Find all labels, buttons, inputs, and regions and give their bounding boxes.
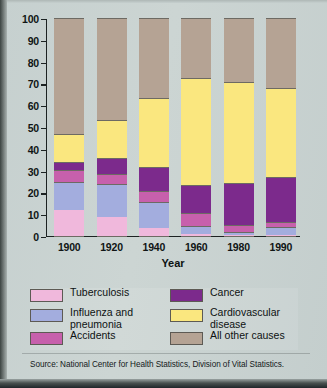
bar-segment-1980-influenza-and-pneumonia[interactable] [224,232,254,235]
bar-segment-1990-cardiovascular-disease[interactable] [266,88,296,177]
scan-edge-bottom [0,379,327,388]
legend-item-tuberculosis[interactable]: Tuberculosis [30,288,164,306]
legend-item-accidents[interactable]: Accidents [30,331,164,349]
bar-segment-1940-cancer[interactable] [139,167,169,191]
bar-segment-1920-influenza-and-pneumonia[interactable] [97,184,127,218]
bar-segment-1900-cardiovascular-disease[interactable] [54,134,84,162]
chart-page: Percent of All Deaths 100908070605040302… [0,0,327,388]
bar-segment-1980-all-other-causes[interactable] [224,18,254,82]
bar-segment-1920-tuberculosis[interactable] [97,217,127,236]
bar-segment-1960-all-other-causes[interactable] [181,18,211,78]
bar-segment-1940-all-other-causes[interactable] [139,18,169,98]
y-tick-label: 10 [28,209,39,221]
legend: TuberculosisInfluenza and pneumoniaAccid… [30,288,298,350]
x-tick-label-1980: 1980 [216,241,262,253]
legend-label: Cancer [210,287,244,299]
y-tick [41,150,46,151]
y-tick [41,193,46,194]
bar-segment-1960-accidents[interactable] [181,213,211,226]
legend-item-influenza-and-pneumonia[interactable]: Influenza and pneumonia [30,308,164,326]
source-note: Source: National Center for Health Stati… [30,360,310,369]
bar-segment-1900-accidents[interactable] [54,170,84,182]
x-tick-label-1940: 1940 [131,241,177,253]
bar-1940[interactable] [139,19,169,237]
bar-1900[interactable] [54,19,84,237]
y-tick-label: 80 [28,57,39,69]
bar-segment-1900-tuberculosis[interactable] [54,210,84,236]
legend-swatch-icon [30,289,63,302]
legend-label: Influenza and pneumonia [70,307,133,330]
y-tick [41,172,46,173]
bar-segment-1920-cancer[interactable] [97,158,127,174]
bar-1980[interactable] [224,19,254,237]
y-tick [41,106,46,107]
bar-segment-1990-tuberculosis[interactable] [266,235,296,236]
bar-segment-1900-influenza-and-pneumonia[interactable] [54,182,84,210]
bar-segment-1960-tuberculosis[interactable] [181,234,211,236]
bar-segment-1920-all-other-causes[interactable] [97,18,127,120]
bar-segment-1980-cancer[interactable] [224,183,254,226]
legend-swatch-icon [170,332,203,345]
bar-segment-1940-cardiovascular-disease[interactable] [139,98,169,168]
bar-segment-1960-cancer[interactable] [181,185,211,213]
bar-segment-1940-tuberculosis[interactable] [139,228,169,236]
bar-segment-1960-influenza-and-pneumonia[interactable] [181,226,211,234]
scan-edge-left [0,0,7,388]
y-tick-label: 100 [22,13,39,25]
legend-label: All other causes [210,330,285,342]
legend-swatch-icon [170,309,203,322]
bar-segment-1990-influenza-and-pneumonia[interactable] [266,227,296,235]
y-tick [41,19,46,20]
bar-segment-1980-tuberculosis[interactable] [224,235,254,236]
scan-edge-top [0,0,327,3]
x-tick-label-1920: 1920 [89,241,135,253]
y-tick-label: 30 [28,166,39,178]
legend-label: Tuberculosis [70,287,129,299]
bar-1990[interactable] [266,19,296,237]
y-tick [41,215,46,216]
y-tick-label: 50 [28,122,39,134]
bar-segment-1990-cancer[interactable] [266,177,296,222]
y-tick-label: 0 [33,231,39,243]
y-axis-line [46,19,47,237]
y-tick [41,237,46,238]
bar-segment-1900-cancer[interactable] [54,162,84,170]
bar-segment-1990-accidents[interactable] [266,222,296,227]
legend-item-cardiovascular-disease[interactable]: Cardiovascular disease [170,308,304,326]
legend-label: Cardiovascular disease [210,307,280,330]
y-tick [41,41,46,42]
y-tick [41,128,46,129]
legend-swatch-icon [170,289,203,302]
x-axis-title: Year [46,257,300,269]
bar-segment-1990-all-other-causes[interactable] [266,18,296,88]
y-tick [41,84,46,85]
bar-1920[interactable] [97,19,127,237]
bar-segment-1900-all-other-causes[interactable] [54,18,84,134]
legend-item-all-other-causes[interactable]: All other causes [170,331,304,349]
legend-swatch-icon [30,332,63,345]
legend-label: Accidents [70,330,116,342]
legend-item-cancer[interactable]: Cancer [170,288,304,306]
footer-divider [22,353,310,354]
y-tick-label: 70 [28,78,39,90]
y-tick [41,63,46,64]
bar-segment-1920-accidents[interactable] [97,174,127,184]
x-tick-label-1900: 1900 [46,241,92,253]
bar-segment-1940-influenza-and-pneumonia[interactable] [139,202,169,228]
bar-segment-1940-accidents[interactable] [139,191,169,202]
y-tick-label: 60 [28,100,39,112]
bar-segment-1980-accidents[interactable] [224,225,254,232]
x-tick-label-1990: 1990 [258,241,304,253]
bar-1960[interactable] [181,19,211,237]
bar-segment-1920-cardiovascular-disease[interactable] [97,120,127,157]
legend-swatch-icon [30,309,63,322]
x-tick-label-1960: 1960 [173,241,219,253]
plot-area: Percent of All Deaths 100908070605040302… [46,19,300,237]
y-tick-label: 20 [28,187,39,199]
bar-segment-1960-cardiovascular-disease[interactable] [181,78,211,185]
bar-segment-1980-cardiovascular-disease[interactable] [224,82,254,182]
y-tick-label: 90 [28,35,39,47]
y-tick-label: 40 [28,144,39,156]
